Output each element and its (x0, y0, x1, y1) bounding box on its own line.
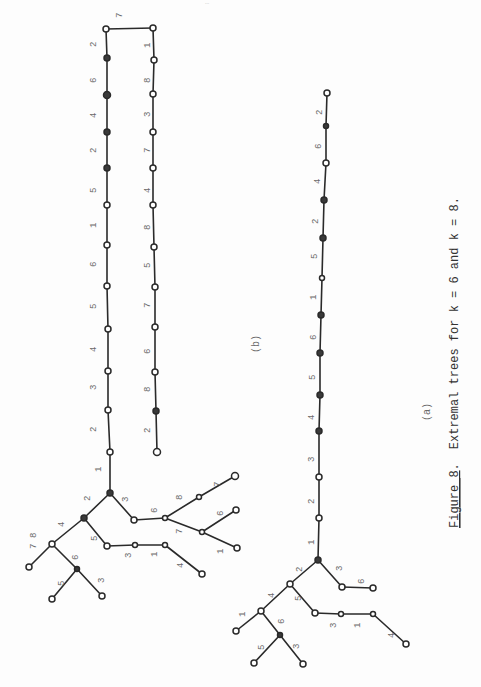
tree-node (339, 584, 345, 590)
edge-label: 3 (121, 497, 131, 502)
edge-label: 4 (267, 593, 277, 598)
tree-b-top-label: 7 (115, 13, 125, 18)
tree-node (324, 124, 329, 129)
edge-label: 8 (143, 78, 153, 83)
tree-node (131, 517, 137, 523)
tree-node (370, 585, 376, 591)
tree-node (150, 129, 156, 135)
tree-node (150, 25, 156, 31)
tree-node (104, 242, 110, 248)
tree-node (316, 515, 322, 521)
edge-label: 6 (89, 78, 99, 83)
tree-node (233, 628, 239, 634)
tree-b: 2 6 4 2 5 1 6 5 4 3 2 1 7 1 8 3 7 4 8 5 … (26, 13, 240, 602)
tree-node (278, 633, 283, 638)
tree-node (232, 473, 239, 480)
edge-label: 3 (292, 644, 302, 649)
tree-node (323, 160, 329, 166)
tree-node (107, 449, 113, 455)
edge-label: 1 (150, 552, 160, 557)
tree-node (104, 543, 110, 549)
tree-node (104, 129, 110, 135)
edge-label: 5 (89, 304, 99, 309)
figure-canvas: … (0, 0, 481, 687)
tree-node (300, 661, 306, 667)
tree-node (81, 515, 87, 521)
tree-node (234, 545, 240, 551)
edge-label: 3 (89, 385, 99, 390)
edge-label: 4 (57, 522, 67, 527)
edge-label: 4 (176, 563, 186, 568)
edge-label: 5 (310, 254, 320, 259)
edge-label: 1 (89, 223, 99, 228)
tree-node (251, 660, 257, 666)
tree-node (371, 612, 376, 617)
header-remnant: … (205, 0, 209, 6)
edge-label: 6 (143, 349, 153, 354)
edge-label: 2 (311, 219, 321, 224)
tree-node (197, 495, 202, 500)
tree-node (233, 507, 239, 513)
tree-node (163, 543, 168, 548)
edge-label: 3 (97, 578, 107, 583)
tree-node (317, 350, 323, 356)
tree-node (163, 516, 168, 521)
tree-node (287, 581, 293, 587)
tree-node (316, 474, 322, 480)
edge-label: 4 (89, 347, 99, 352)
edge-label: 5 (57, 581, 67, 586)
tree-edge (318, 560, 342, 587)
tree-node (321, 197, 327, 203)
tree-node (324, 90, 330, 96)
edge-label: 2 (315, 110, 325, 115)
tree-b-left-labels: 2 6 4 2 5 1 6 5 4 3 2 1 (89, 42, 104, 472)
tree-b-top-edge (106, 28, 153, 29)
edge-label: 1 (238, 612, 248, 617)
tree-node (320, 276, 325, 281)
subfigure-b-label: (b) (251, 335, 262, 353)
edge-label: 7 (29, 544, 39, 549)
edge-label: 2 (143, 428, 153, 433)
tree-node (258, 608, 264, 614)
tree-node (312, 610, 318, 616)
caption-text: Extremal trees for k = 6 and k = 8. (448, 197, 462, 449)
tree-node (199, 571, 205, 577)
edge-label: 6 (150, 508, 160, 513)
tree-edge (315, 613, 341, 614)
edge-label: 2 (89, 148, 99, 153)
tree-b-nodes (26, 25, 240, 602)
edge-label: 4 (307, 415, 317, 420)
tree-node (104, 55, 110, 61)
edge-label: 2 (89, 427, 99, 432)
edge-label: 3 (329, 623, 339, 628)
tree-edge (342, 587, 373, 588)
edge-label: 3 (124, 553, 134, 558)
tree-node (99, 593, 105, 599)
edge-label: 3 (335, 566, 345, 571)
tree-edge (202, 532, 237, 548)
tree-node (317, 392, 323, 398)
edge-label: 6 (357, 579, 367, 584)
edge-label: 2 (307, 499, 317, 504)
edge-label: 6 (309, 335, 319, 340)
tree-node (403, 641, 409, 647)
edge-label: 5 (89, 188, 99, 193)
edge-label: 5 (308, 375, 318, 380)
edge-label: 4 (387, 633, 397, 638)
edge-label: 4 (313, 179, 323, 184)
tree-node (75, 567, 80, 572)
edge-label: 4 (143, 188, 153, 193)
tree-node (152, 284, 158, 290)
tree-edge (373, 614, 406, 644)
figure-page: … (0, 0, 481, 687)
tree-node (152, 369, 158, 375)
edge-label: 6 (89, 262, 99, 267)
edge-label: 5 (294, 596, 304, 601)
tree-node (150, 91, 156, 97)
edge-label: 1 (309, 295, 319, 300)
edge-label: 7 (175, 529, 185, 534)
tree-node (104, 202, 110, 208)
tree-node (315, 557, 321, 563)
edge-label: 7 (213, 482, 223, 487)
edge-label: 6 (71, 555, 81, 560)
